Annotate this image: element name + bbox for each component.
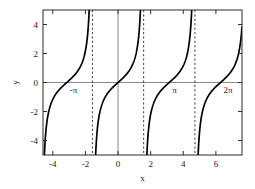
tangent-function-chart: -4-20246-4-2024xy-ππ2π: [0, 0, 255, 189]
y-tick-label-2: 0: [34, 78, 39, 88]
x-tick-label-3: 2: [148, 159, 153, 169]
plot-canvas: -4-20246-4-2024xy-ππ2π: [0, 0, 255, 189]
y-tick-label-4: 4: [34, 20, 39, 30]
curve-annotation-1: -π: [70, 85, 78, 95]
x-tick-label-1: -2: [82, 159, 90, 169]
x-tick-label-5: 6: [214, 159, 219, 169]
curve-annotation-2: π: [172, 85, 177, 95]
x-tick-label-4: 4: [181, 159, 186, 169]
y-tick-label-3: 2: [34, 49, 39, 59]
x-tick-label-0: -4: [49, 159, 57, 169]
x-axis-label: x: [140, 173, 145, 183]
y-axis-label: y: [10, 80, 20, 85]
x-tick-label-2: 0: [116, 159, 121, 169]
y-tick-label-1: -2: [31, 107, 39, 117]
y-tick-label-0: -4: [31, 136, 39, 146]
curve-annotation-3: 2π: [224, 85, 234, 95]
